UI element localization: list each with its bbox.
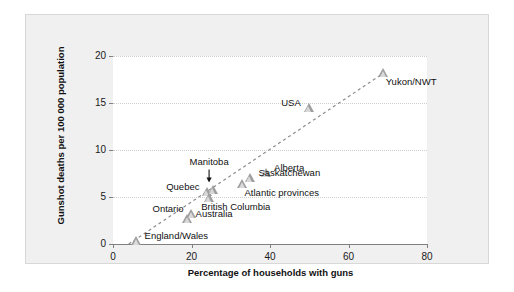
x-tick-label: 0	[93, 251, 133, 262]
data-point-marker	[131, 236, 141, 245]
data-point-label: Ontario	[153, 203, 184, 214]
y-axis-label: Gunshot deaths per 100 000 population	[55, 41, 66, 231]
y-tick-label: 10	[80, 144, 106, 155]
x-tick	[270, 244, 271, 248]
y-tick-label: 15	[80, 97, 106, 108]
data-point-marker	[208, 185, 218, 194]
y-tick-label: 20	[80, 50, 106, 61]
data-point-label: USA	[281, 97, 301, 108]
data-point-label: Manitoba	[190, 156, 229, 167]
x-tick-label: 60	[329, 251, 369, 262]
x-tick-label: 20	[172, 251, 212, 262]
data-point-label: Yukon/NWT	[386, 76, 437, 87]
y-tick-label: 5	[80, 191, 106, 202]
data-point-label: Alberta	[274, 162, 304, 173]
trend-line	[113, 56, 427, 244]
x-tick-label: 40	[250, 251, 290, 262]
x-tick	[113, 244, 114, 248]
x-tick-label: 80	[407, 251, 447, 262]
data-point-label: British Columbia	[201, 201, 270, 212]
data-point-label: Atlantic provinces	[245, 187, 319, 198]
data-point-marker	[304, 103, 314, 112]
plot-area: England/WalesAustraliaOntarioQuebecBriti…	[113, 56, 427, 244]
data-point-label: Quebec	[166, 181, 199, 192]
y-tick-label: 0	[80, 238, 106, 249]
y-tick	[109, 244, 113, 245]
data-point-label: England/Wales	[145, 230, 209, 241]
x-tick	[427, 244, 428, 248]
x-tick	[192, 244, 193, 248]
figure-panel: Gunshot deaths per 100 000 population Pe…	[25, 14, 489, 264]
data-point-marker	[186, 209, 196, 218]
data-point-marker	[245, 173, 255, 182]
x-axis-label: Percentage of households with guns	[113, 267, 428, 278]
x-tick	[349, 244, 350, 248]
